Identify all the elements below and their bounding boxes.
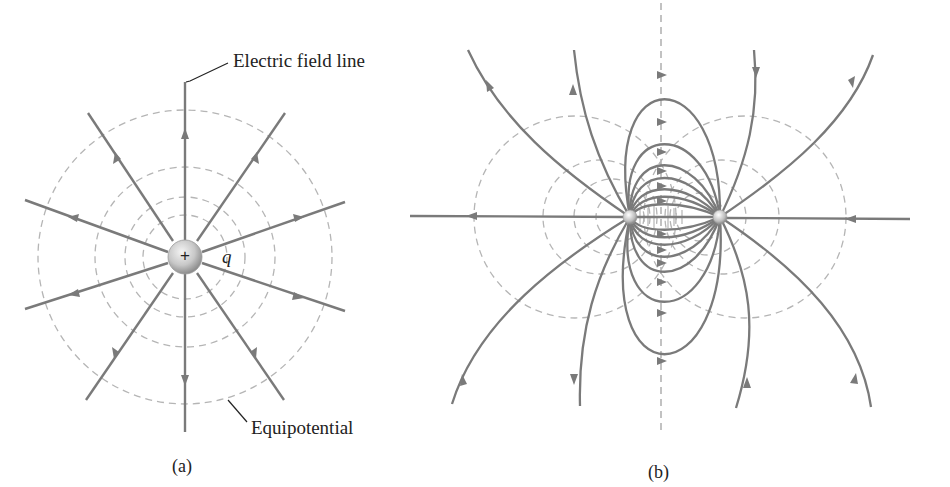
caption-b: (b) <box>648 462 669 483</box>
caption-a: (a) <box>172 456 192 477</box>
equipotential-label: Equipotential <box>251 417 353 439</box>
positive-charge <box>623 210 637 224</box>
panel-b-dipole <box>410 3 910 432</box>
dipole-field-lines <box>410 50 910 408</box>
field-line-leader <box>186 63 228 82</box>
dipole-arrows <box>460 67 858 388</box>
negative-charge <box>713 210 727 224</box>
charge-sign: + <box>180 246 190 266</box>
charge-label-q: q <box>222 246 232 268</box>
equipotential-leader <box>228 400 247 422</box>
electric-field-line-label: Electric field line <box>233 50 365 72</box>
figure-canvas <box>0 0 950 487</box>
